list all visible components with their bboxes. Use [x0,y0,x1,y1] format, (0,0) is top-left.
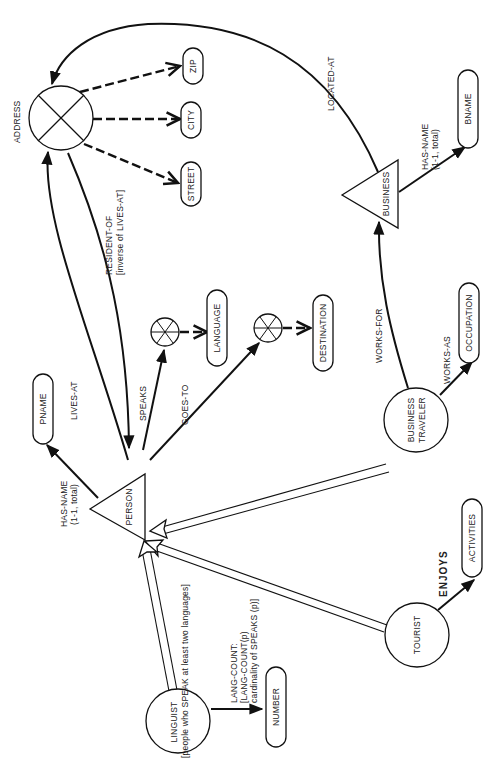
tourist-node[interactable]: TOURIST [385,603,449,667]
svg-text:TRAVELER: TRAVELER [417,397,427,443]
street-node[interactable]: STREET [181,162,201,206]
label-goes-to: GOES-TO [180,384,190,425]
label-person-has-name-card: (1-1, total) [69,484,79,525]
label-person-has-name: HAS-NAME [59,480,69,527]
speaks-multivalue-node [151,318,179,346]
city-node[interactable]: CITY [181,102,201,138]
svg-text:PERSON: PERSON [124,488,134,525]
svg-text:TOURIST: TOURIST [412,616,422,655]
svg-text:LANGUAGE: LANGUAGE [212,303,222,352]
label-resident-of-sub: [inverse of LIVES-AT] [115,190,125,275]
pname-node[interactable]: PNAME [33,374,53,444]
label-business-has-name: HAS-NAME [420,123,430,170]
svg-text:BUSINESS: BUSINESS [381,172,391,217]
business-traveler-node[interactable]: BUSINESS TRAVELER [384,388,448,452]
label-lang-count: LANG-COUNT: [229,643,239,703]
label-enjoys: ENJOYS [438,550,449,597]
edge-goes-to [150,343,259,460]
edge-address-street [84,144,178,183]
svg-text:BNAME: BNAME [463,93,473,124]
svg-text:NUMBER: NUMBER [271,688,281,726]
subclass-linguist [139,541,177,691]
bname-node[interactable]: BNAME [458,70,478,148]
language-node[interactable]: LANGUAGE [207,290,227,366]
label-speaks: SPEAKS [138,386,148,421]
svg-text:ACTIVITIES: ACTIVITIES [467,514,477,562]
label-lang-count-def2: cardinality of SPEAKS (p)] [249,599,259,703]
occupation-node[interactable]: OCCUPATION [459,283,479,363]
svg-text:DESTINATION: DESTINATION [318,304,328,363]
svg-text:PNAME: PNAME [38,393,48,424]
svg-text:BUSINESS: BUSINESS [406,398,416,443]
zip-node[interactable]: ZIP [183,48,203,84]
person-node[interactable]: PERSON [90,474,145,540]
svg-text:OCCUPATION: OCCUPATION [464,294,474,351]
edge-address-zip [80,66,180,92]
label-lives-at: LIVES-AT [69,381,79,420]
svg-text:LINGUIST: LINGUIST [169,702,179,743]
semantic-model-diagram: ADDRESS ZIP CITY STREET BNAME PNAME LANG… [0,0,496,762]
subclass-business-traveler [150,464,389,538]
label-lang-count-def: [LANG-COUNT(p) [239,631,249,703]
business-node[interactable]: BUSINESS [342,160,398,228]
destination-node[interactable]: DESTINATION [313,295,333,371]
goes-to-multivalue-node [254,314,282,342]
svg-text:CITY: CITY [186,110,196,130]
svg-text:STREET: STREET [186,167,196,202]
label-located-at: LOCATED-AT [326,56,336,111]
linguist-node[interactable]: LINGUIST [146,689,210,753]
address-label: ADDRESS [12,100,22,143]
label-works-for: WORKS-FOR [374,308,384,363]
address-node[interactable] [29,86,93,150]
number-node[interactable]: NUMBER [266,667,286,747]
linguist-predicate: [people who SPEAK at least two languages… [180,584,190,758]
label-works-as: WORKS-AS [442,336,452,384]
label-business-has-name-card: (1-1, total) [430,129,440,170]
svg-text:ZIP: ZIP [188,59,198,73]
label-resident-of: RESIDENT-OF [104,216,114,275]
activities-node[interactable]: ACTIVITIES [462,499,482,577]
